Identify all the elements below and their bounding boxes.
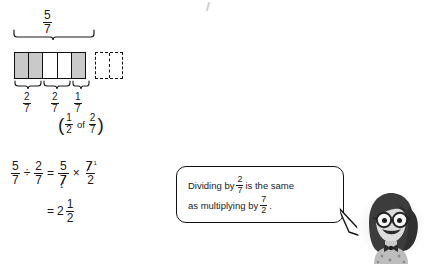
fraction-denominator: 2 bbox=[86, 173, 95, 186]
speech-bubble-line-2: as multiplying by 7 2 . bbox=[188, 195, 333, 215]
fraction-denominator: 7 bbox=[34, 173, 43, 186]
divide-sign: ÷ bbox=[24, 166, 31, 180]
fraction-one-half-result: 1 2 bbox=[66, 198, 75, 224]
fraction-denominator: 7 bbox=[89, 124, 97, 135]
fraction-numerator: 2 bbox=[51, 92, 59, 102]
top-brace-icon bbox=[12, 28, 96, 42]
stray-mark bbox=[206, 2, 210, 11]
speech-text-before: as multiplying by bbox=[188, 197, 258, 214]
dashed-remainder-box bbox=[95, 52, 123, 79]
fraction-denominator: 7 bbox=[11, 173, 20, 186]
group-label-1: 2 7 bbox=[22, 92, 32, 114]
cancel-one-marker: 1 bbox=[60, 183, 63, 189]
fraction-numerator: 5 bbox=[43, 9, 52, 21]
fraction-numerator-cancelled: 71 bbox=[84, 160, 98, 172]
group-label-2: 2 7 bbox=[50, 92, 60, 114]
mixed-number-two-and-half: 2 1 2 bbox=[57, 198, 75, 224]
fraction-numerator: 5 bbox=[59, 160, 68, 172]
speech-bubble: Dividing by 2 7 is the same as multiplyi… bbox=[176, 166, 344, 223]
fraction-numerator: 1 bbox=[65, 113, 73, 123]
bar-cell-3 bbox=[43, 53, 57, 78]
fraction-numerator: 7 bbox=[260, 195, 267, 204]
fraction-numerator: 2 bbox=[23, 92, 31, 102]
fraction-cancelled-seven-over-two: 71 2 bbox=[84, 160, 98, 186]
speech-text-period: . bbox=[269, 197, 272, 214]
speech-bubble-line-1: Dividing by 2 7 is the same bbox=[188, 175, 333, 195]
group-label-3: 1 7 bbox=[73, 92, 83, 114]
speech-text-before: Dividing by bbox=[188, 177, 234, 194]
fraction-five-sevenths-eq: 5 7 bbox=[11, 160, 20, 186]
fraction-numerator: 1 bbox=[74, 92, 82, 102]
fraction-denominator: 2 bbox=[260, 205, 267, 215]
dashed-half-2 bbox=[110, 53, 123, 78]
fraction-denominator: 2 bbox=[66, 211, 75, 224]
equals-sign: = bbox=[47, 204, 54, 218]
fraction-two-sevenths-b: 2 7 bbox=[51, 92, 59, 114]
fraction-denominator: 7 bbox=[23, 103, 31, 114]
fraction-numerator: 2 bbox=[34, 160, 43, 172]
paren-close: ) bbox=[97, 115, 103, 134]
fraction-numerator: 1 bbox=[66, 198, 75, 210]
avatar-girl-with-glasses bbox=[356, 186, 426, 264]
whole-number: 2 bbox=[57, 204, 64, 218]
fraction-two-sevenths-bubble: 2 7 bbox=[236, 175, 243, 195]
cancel-exponent: 1 bbox=[93, 160, 96, 166]
bar-cell-2 bbox=[29, 53, 43, 78]
fraction-denominator: 2 bbox=[65, 124, 73, 135]
fraction-one-half: 1 2 bbox=[65, 113, 73, 135]
fraction-one-seventh: 1 7 bbox=[74, 92, 82, 114]
dashed-half-1 bbox=[96, 53, 110, 78]
fraction-numerator: 2 bbox=[89, 113, 97, 123]
paren-open: ( bbox=[58, 115, 64, 134]
fraction-seven-halves-bubble: 7 2 bbox=[260, 195, 267, 215]
worksheet-canvas: 5 7 2 7 2 7 1 bbox=[0, 0, 427, 264]
fraction-two-sevenths-eq: 2 7 bbox=[34, 160, 43, 186]
equation-block: 5 7 ÷ 2 7 = 5 7 × 71 2 = bbox=[10, 160, 99, 224]
times-sign: × bbox=[73, 166, 80, 180]
fraction-denominator: 7 bbox=[236, 185, 243, 195]
fraction-numerator: 2 bbox=[236, 175, 243, 184]
fraction-two-sevenths-a: 2 7 bbox=[23, 92, 31, 114]
cancelled-seven: 7 bbox=[85, 160, 94, 172]
paren-connector: of bbox=[77, 119, 85, 130]
bar-cell-1 bbox=[15, 53, 29, 78]
speech-text-after: is the same bbox=[245, 177, 294, 194]
bar-model bbox=[14, 52, 86, 79]
bar-cell-4 bbox=[58, 53, 72, 78]
paren-note: ( 1 2 of 2 7 ) bbox=[58, 113, 104, 135]
equation-line-2: = 2 1 2 bbox=[44, 198, 99, 224]
equals-sign: = bbox=[47, 166, 54, 180]
fraction-two-sevenths-c: 2 7 bbox=[89, 113, 97, 135]
bar-cell-5 bbox=[72, 53, 85, 78]
fraction-numerator: 5 bbox=[11, 160, 20, 172]
equation-line-1: 5 7 ÷ 2 7 = 5 7 × 71 2 bbox=[10, 160, 99, 186]
